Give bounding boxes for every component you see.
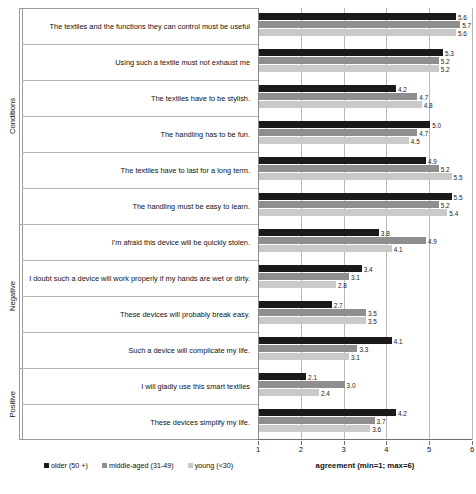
legend-item-middle-aged: middle-aged (31-49) [102, 461, 174, 470]
category-label: These devices simplify my life. [22, 404, 254, 440]
legend-item-young: young (<30) [188, 461, 234, 470]
bar-value-label: 3.0 [347, 382, 356, 389]
bar-value-label: 5.2 [441, 66, 450, 73]
bar-value-label: 4.8 [424, 102, 433, 109]
category-label: Using such a textile must not exhaust me [22, 44, 254, 80]
bar [259, 57, 439, 64]
bar [259, 353, 349, 360]
bar [259, 425, 370, 432]
bar-value-label: 2.8 [338, 282, 347, 289]
bar [259, 381, 345, 388]
bar [259, 13, 456, 20]
row-separator [22, 188, 258, 189]
bar-value-label: 4.1 [394, 246, 403, 253]
category-label: The handling has to be fun. [22, 116, 254, 152]
row-separator [22, 260, 258, 261]
bar-value-label: 3.1 [351, 354, 360, 361]
plot-area: 5.65.75.65.35.25.24.24.74.85.04.74.54.95… [258, 8, 472, 440]
bar [259, 317, 366, 324]
bar [259, 193, 452, 200]
bar [259, 209, 447, 216]
row-separator [22, 404, 258, 405]
bar-value-label: 4.1 [394, 338, 403, 345]
bar-value-label: 3.5 [368, 318, 377, 325]
bar-value-label: 3.6 [372, 426, 381, 433]
category-label-column: The textiles and the functions they can … [22, 8, 258, 440]
legend-swatch-young [188, 463, 193, 468]
bar [259, 29, 456, 36]
category-label: The handling must be easy to learn. [22, 188, 254, 224]
bar-value-label: 5.4 [449, 210, 458, 217]
bar [259, 265, 362, 272]
row-separator [22, 368, 258, 369]
bar-value-label: 5.2 [441, 58, 450, 65]
bar [259, 49, 443, 56]
bar [259, 309, 366, 316]
bar [259, 373, 306, 380]
bar [259, 101, 422, 108]
bar [259, 389, 319, 396]
bar-value-label: 4.7 [419, 130, 428, 137]
bar-value-label: 4.7 [419, 94, 428, 101]
bar-value-label: 5.0 [432, 122, 441, 129]
row-separator [22, 80, 258, 81]
bar-value-label: 3.8 [381, 230, 390, 237]
bar-value-label: 5.2 [441, 202, 450, 209]
bar [259, 237, 426, 244]
bar-value-label: 3.7 [377, 418, 386, 425]
x-tick-label: 4 [384, 445, 388, 454]
row-separator [22, 44, 258, 45]
chart-figure: ConditionsNegativePositive The textiles … [0, 0, 476, 494]
category-label: The textiles and the functions they can … [22, 8, 254, 44]
legend-label-middle-aged: middle-aged (31-49) [109, 461, 174, 470]
bar-value-label: 4.9 [428, 238, 437, 245]
x-tick-label: 2 [299, 445, 303, 454]
bar-value-label: 5.6 [458, 14, 467, 21]
bar-value-label: 5.7 [462, 22, 471, 29]
bar-value-label: 4.2 [398, 86, 407, 93]
category-label: I doubt such a device will work properly… [22, 260, 254, 296]
legend-swatch-older [44, 463, 49, 468]
bar-value-label: 5.5 [454, 194, 463, 201]
bar-value-label: 3.1 [351, 274, 360, 281]
bar-value-label: 3.3 [359, 346, 368, 353]
bar-value-label: 5.2 [441, 166, 450, 173]
legend-item-older: older (50 +) [44, 461, 88, 470]
bar [259, 137, 409, 144]
category-label: I'm afraid this device will be quickly s… [22, 224, 254, 260]
gridline [344, 8, 345, 440]
bar-value-label: 4.9 [428, 158, 437, 165]
x-tick-label: 3 [341, 445, 345, 454]
bar [259, 229, 379, 236]
gridline [472, 8, 473, 440]
group-label: Conditions [2, 8, 22, 224]
bar-value-label: 2.7 [334, 302, 343, 309]
bar-value-label: 3.4 [364, 266, 373, 273]
bar [259, 157, 426, 164]
bar-value-label: 3.5 [368, 310, 377, 317]
bar-value-label: 5.5 [454, 174, 463, 181]
gridline [429, 8, 430, 440]
x-tick-label: 6 [470, 445, 474, 454]
bar [259, 409, 396, 416]
row-separator [22, 332, 258, 333]
legend-swatch-middle-aged [102, 463, 107, 468]
bar [259, 93, 417, 100]
x-tick-label: 5 [427, 445, 431, 454]
category-label: I will gladly use this smart textiles [22, 368, 254, 404]
x-tick-label: 1 [256, 445, 260, 454]
chart-legend: older (50 +) middle-aged (31-49) young (… [44, 461, 233, 470]
bar-value-label: 5.6 [458, 30, 467, 37]
category-label: Such a device will complicate my life. [22, 332, 254, 368]
bar-value-label: 2.1 [308, 374, 317, 381]
bar [259, 273, 349, 280]
bar [259, 281, 336, 288]
bar [259, 245, 392, 252]
x-axis-line [258, 439, 472, 440]
row-separator [22, 152, 258, 153]
row-separator [22, 296, 258, 297]
legend-label-young: young (<30) [195, 461, 234, 470]
bar-value-label: 4.2 [398, 410, 407, 417]
category-label: The textiles have to last for a long ter… [22, 152, 254, 188]
bar [259, 165, 439, 172]
